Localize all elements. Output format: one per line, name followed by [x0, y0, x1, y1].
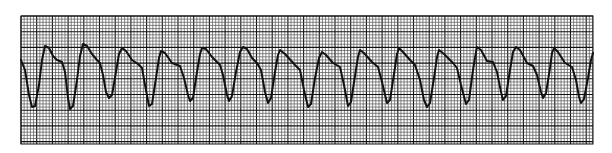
ecg-rhythm-strip	[0, 0, 612, 153]
